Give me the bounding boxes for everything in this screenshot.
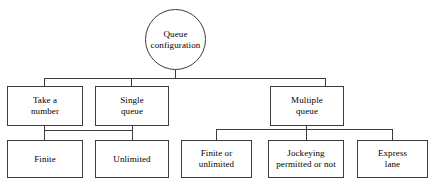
node-label-take-a-number: Take a number bbox=[29, 95, 61, 117]
node-label-finite-or-unlimited: Finite or unlimited bbox=[197, 148, 236, 170]
node-label-queue-configuration: Queue configuration bbox=[149, 29, 203, 51]
node-label-unlimited: Unlimited bbox=[111, 154, 152, 165]
connector-drop-jockeying bbox=[306, 129, 307, 140]
connector-level2-bus bbox=[44, 78, 326, 79]
node-jockeying-permitted-or-not[interactable]: Jockeying permitted or not bbox=[268, 140, 344, 178]
node-multiple-queue[interactable]: Multiple queue bbox=[270, 86, 344, 126]
connector-drop-finite bbox=[44, 130, 45, 140]
connector-drop-finite-or-unlimited bbox=[216, 129, 217, 140]
connector-left-group-bus bbox=[44, 130, 133, 131]
node-label-express-lane: Express lane bbox=[376, 148, 409, 170]
node-single-queue[interactable]: Single queue bbox=[95, 86, 169, 126]
connector-right-group-bus bbox=[216, 129, 392, 130]
node-take-a-number[interactable]: Take a number bbox=[7, 86, 83, 126]
connector-drop-unlimited bbox=[132, 130, 133, 140]
node-queue-configuration[interactable]: Queue configuration bbox=[145, 9, 206, 70]
node-label-multiple-queue: Multiple queue bbox=[289, 95, 325, 117]
node-finite-or-unlimited[interactable]: Finite or unlimited bbox=[181, 140, 252, 178]
node-unlimited[interactable]: Unlimited bbox=[95, 140, 169, 178]
node-label-finite: Finite bbox=[32, 154, 58, 165]
node-label-jockeying-permitted-or-not: Jockeying permitted or not bbox=[274, 148, 338, 170]
node-express-lane[interactable]: Express lane bbox=[357, 140, 428, 178]
connector-drop-express-lane bbox=[392, 129, 393, 140]
node-label-single-queue: Single queue bbox=[118, 95, 146, 117]
node-finite[interactable]: Finite bbox=[7, 140, 83, 178]
queue-configuration-diagram: Queue configuration Take a number Single… bbox=[0, 0, 432, 183]
